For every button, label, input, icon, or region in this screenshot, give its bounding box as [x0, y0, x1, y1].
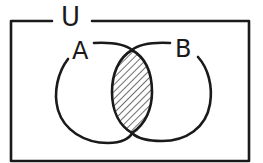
- venn-diagram: U A B: [0, 0, 263, 163]
- set-a-label: A: [72, 39, 88, 63]
- venn-svg: [0, 0, 263, 163]
- set-b-label: B: [175, 37, 191, 61]
- universe-label: U: [61, 4, 80, 30]
